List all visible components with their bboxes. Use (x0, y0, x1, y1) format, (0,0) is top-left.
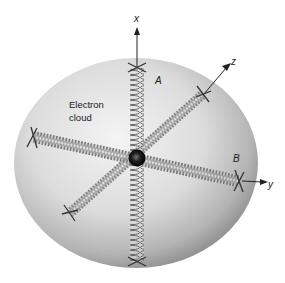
nucleus (129, 150, 146, 167)
spring-b-label: B (233, 153, 240, 164)
electron-cloud-diagram: x z y A B Electron cloud (0, 0, 285, 283)
axis-x-label: x (133, 13, 140, 24)
axis-y-label: y (267, 179, 274, 190)
axis-z-label: z (230, 56, 236, 67)
spring-a-label: A (154, 75, 162, 86)
electron-cloud-label-line1: Electron (69, 99, 104, 110)
electron-cloud-label-line2: cloud (69, 112, 92, 123)
